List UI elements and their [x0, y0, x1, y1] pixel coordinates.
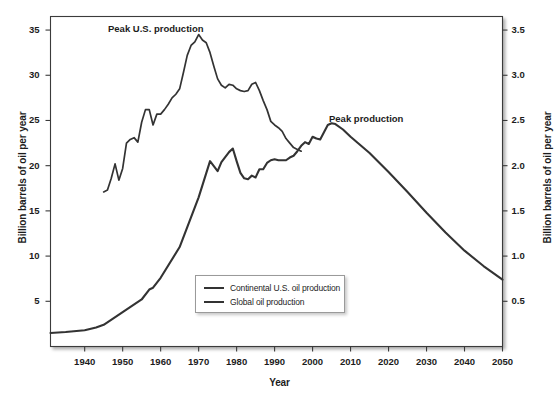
y-tick-label-right-2.5: 2.5	[512, 114, 546, 125]
legend-label-global: Global oil production	[230, 297, 304, 307]
chart-legend: Continental U.S. oil production Global o…	[195, 275, 345, 313]
y-tick-label-right-0.5: 0.5	[512, 295, 546, 306]
y-tick-label-right-1.0: 1.0	[512, 250, 546, 261]
chart-figure: Billion barrels of oil per year Billion …	[0, 0, 559, 400]
legend-item-global: Global oil production	[204, 295, 344, 309]
y-tick-label-left-15: 15	[10, 205, 40, 216]
x-tick-label-2050: 2050	[483, 356, 523, 367]
y-tick-label-left-10: 10	[10, 250, 40, 261]
legend-swatch-continental-us	[204, 287, 224, 289]
x-tick-label-2010: 2010	[331, 356, 371, 367]
legend-label-continental-us: Continental U.S. oil production	[230, 283, 340, 293]
y-tick-label-left-25: 25	[10, 114, 40, 125]
x-tick-label-1990: 1990	[255, 356, 295, 367]
y-tick-label-left-30: 30	[10, 69, 40, 80]
x-tick-label-2040: 2040	[445, 356, 485, 367]
x-tick-label-1960: 1960	[141, 356, 181, 367]
x-tick-label-1950: 1950	[103, 356, 143, 367]
y-tick-label-right-3.5: 3.5	[512, 24, 546, 35]
x-tick-label-2030: 2030	[407, 356, 447, 367]
y-tick-label-right-2.0: 2.0	[512, 160, 546, 171]
y-tick-label-right-1.5: 1.5	[512, 205, 546, 216]
plot-canvas	[0, 0, 559, 400]
y-tick-label-right-3.0: 3.0	[512, 69, 546, 80]
y-tick-label-left-35: 35	[10, 24, 40, 35]
x-axis-title: Year	[0, 377, 559, 388]
x-tick-label-2020: 2020	[369, 356, 409, 367]
y-tick-label-left-20: 20	[10, 160, 40, 171]
x-tick-label-1980: 1980	[217, 356, 257, 367]
annotation-peak-us: Peak U.S. production	[108, 23, 204, 34]
annotation-peak-production: Peak production	[329, 113, 403, 124]
x-tick-label-1970: 1970	[179, 356, 219, 367]
x-tick-label-2000: 2000	[293, 356, 333, 367]
y-tick-label-left-5: 5	[10, 295, 40, 306]
legend-item-continental-us: Continental U.S. oil production	[204, 281, 344, 295]
legend-swatch-global	[204, 301, 224, 303]
x-tick-label-1940: 1940	[65, 356, 105, 367]
